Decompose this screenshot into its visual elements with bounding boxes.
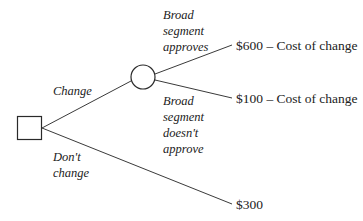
label-not-approve-line3: doesn't <box>163 126 199 140</box>
chance-node-circle <box>131 65 155 89</box>
label-not-approve-line4: approve <box>163 142 204 156</box>
label-approves-line2: segment <box>163 24 204 38</box>
outcome-not-approve: $100 – Cost of change <box>236 91 357 106</box>
label-approves-line3: approves <box>163 40 208 54</box>
decision-node-square <box>18 117 42 140</box>
outcome-approves: $600 – Cost of change <box>236 38 357 53</box>
label-approves-line1: Broad <box>163 8 195 22</box>
decision-tree-diagram: Change Don't change Broad segment approv… <box>0 0 363 221</box>
label-change: Change <box>53 84 92 98</box>
outcome-dont-change: $300 <box>236 197 263 212</box>
label-dont-change-line1: Don't <box>52 150 81 164</box>
label-dont-change-line2: change <box>53 166 90 180</box>
label-not-approve-line1: Broad <box>163 94 195 108</box>
label-not-approve-line2: segment <box>163 110 204 124</box>
